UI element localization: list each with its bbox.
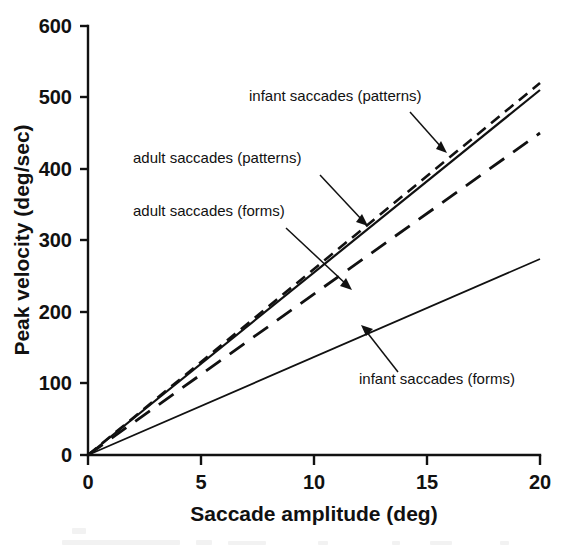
y-tick-label-100: 100 <box>39 372 72 394</box>
scan-artifact <box>62 540 180 545</box>
x-axis-tick-labels: 0 5 10 15 20 <box>82 471 551 493</box>
y-axis-tick-labels: 600 500 400 300 200 100 0 <box>39 15 72 466</box>
annotation-label-adult-saccades-patterns: adult saccades (patterns) <box>133 149 301 166</box>
y-tick-label-500: 500 <box>39 86 72 108</box>
x-tick-label-20: 20 <box>529 471 551 493</box>
x-tick-label-10: 10 <box>303 471 325 493</box>
scan-artifact <box>228 541 266 545</box>
scan-artifact <box>196 540 212 545</box>
figure-container: 600 500 400 300 200 100 0 0 5 10 15 20 S… <box>0 0 571 549</box>
x-tick-label-5: 5 <box>195 471 206 493</box>
series-line-adult-saccades-patterns <box>88 90 540 455</box>
scan-artifact <box>72 528 86 534</box>
annotation-adult-saccades-forms: adult saccades (forms) <box>133 202 352 290</box>
series-lines <box>88 83 540 455</box>
annotation-infant-saccades-forms: infant saccades (forms) <box>359 325 515 387</box>
annotation-leader-adult-saccades-patterns <box>320 175 363 221</box>
annotation-label-adult-saccades-forms: adult saccades (forms) <box>133 202 285 219</box>
annotation-leader-adult-saccades-forms <box>286 228 347 285</box>
x-tick-label-0: 0 <box>82 471 93 493</box>
series-line-adult-saccades-forms <box>88 133 540 455</box>
annotation-label-infant-saccades-patterns: infant saccades (patterns) <box>249 87 422 104</box>
peak-velocity-vs-amplitude-chart: 600 500 400 300 200 100 0 0 5 10 15 20 S… <box>0 0 571 549</box>
annotation-leader-infant-saccades-patterns <box>410 112 442 148</box>
y-tick-label-200: 200 <box>39 301 72 323</box>
y-tick-label-300: 300 <box>39 229 72 251</box>
x-tick-label-15: 15 <box>416 471 438 493</box>
x-axis-ticks <box>88 455 540 465</box>
annotation-infant-saccades-patterns: infant saccades (patterns) <box>249 87 447 153</box>
y-axis-title: Peak velocity (deg/sec) <box>10 124 33 355</box>
annotation-leader-infant-saccades-forms <box>366 331 398 372</box>
annotation-arrowhead-infant-saccades-forms <box>361 325 373 336</box>
y-tick-label-400: 400 <box>39 158 72 180</box>
scan-artifact <box>500 541 509 545</box>
scan-artifact <box>318 541 328 545</box>
y-tick-label-0: 0 <box>61 444 72 466</box>
x-axis-title: Saccade amplitude (deg) <box>190 502 437 525</box>
series-line-infant-saccades-forms <box>88 259 540 455</box>
scan-artifact <box>392 541 400 545</box>
scan-artifact <box>430 541 452 545</box>
y-tick-label-600: 600 <box>39 15 72 37</box>
annotation-label-infant-saccades-forms: infant saccades (forms) <box>359 370 515 387</box>
